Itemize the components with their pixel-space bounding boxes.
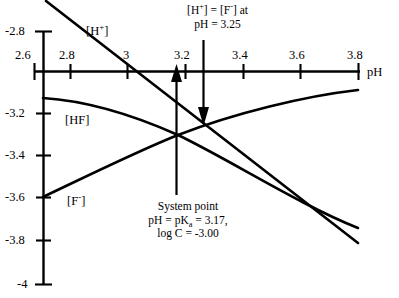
series-label-f-minus: [F-] [67,194,85,209]
system-point-arrow [171,64,182,195]
log-concentration-ph-diagram: -2.8 -3.2 -3.4 -3.6 -3.8 -4 2.6 2.8 3 3.… [0,0,399,298]
series-label-f-minus-prefix: [F [67,194,78,208]
intersection-annotation: [H+] = [F-] at pH = 3.25 [160,4,275,31]
x-tick-label-3.4: 3.4 [232,48,248,63]
y-tick-label--2.8: -2.8 [5,24,25,39]
x-tick-label-3: 3 [123,48,129,63]
intersection-annotation-line2: pH = 3.25 [160,18,275,32]
x-tick-label-3.8: 3.8 [347,48,363,63]
y-tick-label--3.2: -3.2 [5,106,25,121]
series-label-h-plus: [H+] [86,24,108,39]
y-tick-label--3.8: -3.8 [5,233,25,248]
intersection-part3: ] at [233,4,248,16]
y-tick-label--4: -4 [17,277,27,292]
system-point-line2: pH = pKa = 3.17, [123,214,253,228]
series-label-h-plus-prefix: [H [86,24,99,38]
x-tick-label-2.6: 2.6 [15,48,31,63]
y-tick-label--3.4: -3.4 [5,148,25,163]
system-point-line2-a: pH = pK [148,214,188,226]
intersection-part1: [H [187,4,199,16]
system-point-line3: log C = -3.00 [123,227,253,241]
series-label-hf: [HF] [65,113,89,128]
x-axis-label: pH [367,65,382,80]
x-tick-label-2.8: 2.8 [59,48,75,63]
intersection-annotation-line1: [H+] = [F-] at [160,4,275,18]
system-point-line1: System point [123,200,253,214]
series-label-f-minus-suffix: ] [81,194,85,208]
x-tick-label-3.2: 3.2 [174,48,190,63]
chart-canvas [0,0,399,298]
x-tick-label-3.6: 3.6 [289,48,305,63]
y-tick-label--3.6: -3.6 [5,190,25,205]
series-label-h-plus-suffix: ] [104,24,108,38]
intersection-part2: ] = [F [204,4,230,16]
system-point-line2-b: = 3.17, [192,214,227,226]
system-point-annotation: System point pH = pKa = 3.17, log C = -3… [123,200,253,241]
intersection-arrow [198,40,209,126]
